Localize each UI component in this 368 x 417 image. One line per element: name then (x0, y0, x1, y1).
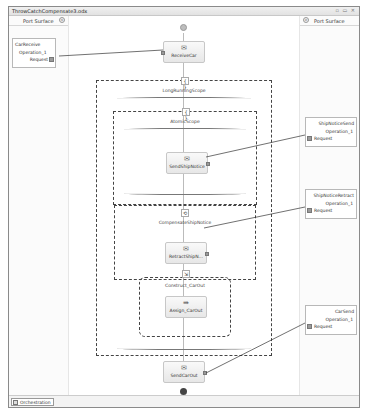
port-bindings (9, 7, 361, 409)
orchestration-tab-icon (13, 400, 18, 405)
orchestration-designer-window: ThrowCatchCompensate3.odx ▫ ▭ ✕ Port Sur… (8, 6, 360, 408)
tab-orchestration[interactable]: Orchestration (11, 398, 54, 406)
tab-label: Orchestration (20, 400, 51, 405)
status-bar: Orchestration (9, 395, 359, 407)
